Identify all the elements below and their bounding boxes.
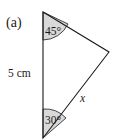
angle-label-bottom: 30° [45,114,62,126]
part-label: (a) [6,15,22,31]
unknown-side-label: x [79,92,86,104]
triangle-diagram: (a) 5 cm 45° 30° x [0,0,116,140]
angle-label-top: 45° [45,25,62,37]
side-length-label: 5 cm [8,67,31,79]
